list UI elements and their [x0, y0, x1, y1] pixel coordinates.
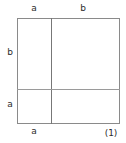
label-left-upper-segment: b [4, 47, 16, 58]
figure-caption: (1) [100, 128, 122, 139]
geometry-figure: a b b a a (1) [0, 0, 126, 143]
outer-square [17, 18, 120, 124]
vertical-divider-line [51, 18, 52, 124]
horizontal-divider-line [17, 89, 120, 90]
label-bottom-left-segment: a [27, 126, 41, 137]
label-top-right-segment: b [76, 3, 90, 14]
label-left-lower-segment: a [4, 99, 16, 110]
label-top-left-segment: a [27, 3, 41, 14]
